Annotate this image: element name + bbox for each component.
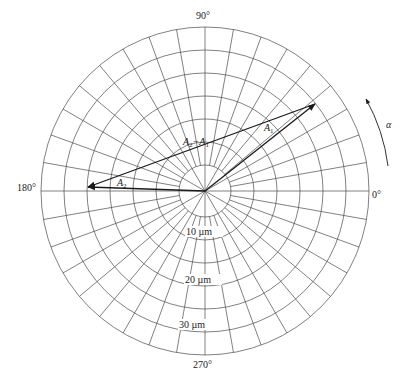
angle-label-deg-270: 270° [193,359,212,370]
radius-label-r-30: 30 µm [179,319,205,330]
alpha-arc-arrow [366,99,388,166]
vector-A1 [205,104,315,191]
spoke-310deg [222,211,311,317]
polar-diagram: A1A2A2−A10°90°180°270°10 µm20 µm30 µm α [0,0,403,382]
angle-label-deg-0: 0° [372,189,381,200]
spoke-230deg [100,211,189,317]
spoke-140deg [79,86,185,175]
spoke-320deg [225,208,331,297]
spoke-40deg [225,86,331,175]
vector-A2 [88,187,205,191]
alpha-label: α [386,119,392,130]
angle-label-deg-180: 180° [17,182,36,193]
rotation-indicator: α [366,99,392,166]
labels: A1A2A2−A10°90°180°270°10 µm20 µm30 µm [17,10,381,370]
spoke-220deg [79,208,185,297]
radius-label-r-20: 20 µm [185,274,211,285]
angle-label-deg-90: 90° [196,10,210,21]
radius-label-r-10: 10 µm [186,226,212,237]
